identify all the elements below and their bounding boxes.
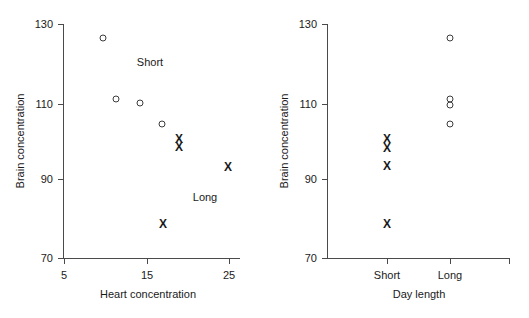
x-tick-long-right: [450, 258, 451, 264]
data-point-long: [447, 102, 454, 109]
data-point-long: [447, 35, 454, 42]
x-tick-short-right: [387, 258, 388, 264]
data-point-short: X: [383, 218, 391, 230]
data-point-short: [113, 96, 120, 103]
y-tick-90-left: [58, 179, 64, 180]
chart-panel-left: 130 110 90 70 5 15 25 Heart concentratio…: [0, 0, 264, 318]
y-tick-90-right: [322, 179, 328, 180]
x-tick-15-left: [147, 258, 148, 264]
x-axis-line-right: [327, 258, 509, 259]
data-point-short: X: [383, 142, 391, 154]
x-tick-label-short-right: Short: [362, 270, 412, 281]
data-point-short: X: [383, 160, 391, 172]
x-axis-title-right: Day length: [349, 288, 489, 300]
data-point-long: [447, 121, 454, 128]
data-point-short: [159, 121, 166, 128]
x-tick-5-left: [64, 258, 65, 264]
y-tick-label-110-left: 110: [25, 99, 53, 110]
x-tick-label-5-left: 5: [49, 270, 79, 281]
x-tick-label-long-right: Long: [425, 270, 475, 281]
data-point-short: [100, 35, 107, 42]
x-tick-label-25-left: 25: [214, 270, 244, 281]
y-tick-130-right: [322, 24, 328, 25]
y-tick-label-90-left: 90: [25, 174, 53, 185]
y-tick-label-110-right: 110: [289, 99, 317, 110]
y-tick-110-left: [58, 104, 64, 105]
y-tick-130-left: [58, 24, 64, 25]
annotation-short-left: Short: [137, 57, 163, 68]
x-axis-line-left: [63, 258, 240, 259]
y-tick-label-130-left: 130: [25, 19, 53, 30]
chart-panel-right: 130 110 90 70 Short Long Day length Brai…: [265, 0, 529, 318]
y-tick-label-90-right: 90: [289, 174, 317, 185]
y-axis-title-left: Brain concentration: [14, 66, 26, 216]
x-tick-end-right: [509, 258, 510, 264]
y-tick-70-right: [322, 258, 328, 259]
x-tick-label-15-left: 15: [132, 270, 162, 281]
y-axis-line-right: [327, 24, 328, 259]
data-point-short: [137, 100, 144, 107]
y-tick-label-130-right: 130: [289, 19, 317, 30]
y-tick-110-right: [322, 104, 328, 105]
data-point-long: X: [159, 218, 167, 230]
data-point-long: X: [224, 161, 232, 173]
x-tick-25-left: [229, 258, 230, 264]
y-axis-title-right: Brain concentration: [278, 66, 290, 216]
y-axis-line-left: [63, 24, 64, 259]
y-tick-label-70-left: 70: [25, 253, 53, 264]
x-axis-title-left: Heart concentration: [68, 288, 228, 300]
annotation-long-left: Long: [193, 192, 217, 203]
data-point-long: X: [175, 141, 183, 153]
figure-container: 130 110 90 70 5 15 25 Heart concentratio…: [0, 0, 529, 318]
y-tick-label-70-right: 70: [289, 253, 317, 264]
